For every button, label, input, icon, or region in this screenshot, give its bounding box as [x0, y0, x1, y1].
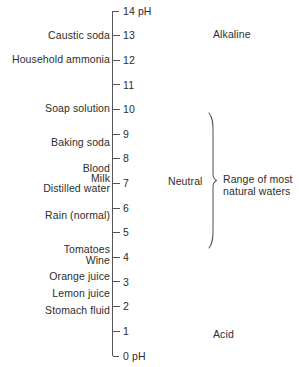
zone-label-neutral: Neutral: [168, 175, 203, 187]
tick-label-10: 10: [123, 104, 135, 115]
ph-scale-diagram: Caustic soda Household ammonia Soap solu…: [0, 0, 299, 367]
substance-label-stomach-fluid: Stomach fluid: [45, 305, 110, 316]
substance-label-rain-normal: Rain (normal): [45, 210, 110, 221]
zone-label-alkaline: Alkaline: [213, 28, 251, 40]
substance-label-orange-juice: Orange juice: [49, 271, 110, 282]
tick-label-3: 3: [123, 277, 129, 288]
substance-label-lemon-juice: Lemon juice: [52, 288, 110, 299]
tick-label-9: 9: [123, 129, 129, 140]
zone-label-acid: Acid: [213, 328, 234, 340]
tick-label-11: 11: [123, 80, 134, 91]
substance-label-caustic-soda: Caustic soda: [48, 30, 110, 41]
substance-label-distilled-water: Distilled water: [43, 183, 110, 194]
substance-label-wine: Wine: [86, 255, 110, 266]
tick-label-8: 8: [123, 153, 129, 164]
clipped-caption: [8, 360, 291, 367]
zone-label-range-of-natural-waters: Range of most natural waters: [223, 173, 299, 197]
substance-label-soap-solution: Soap solution: [45, 103, 110, 114]
tick-label-2: 2: [123, 301, 129, 312]
natural-waters-brace: [209, 113, 217, 248]
tick-label-14: 14 pH: [123, 6, 152, 17]
substance-label-baking-soda: Baking soda: [51, 137, 110, 148]
tick-label-7: 7: [123, 178, 129, 189]
tick-label-1: 1: [123, 326, 129, 337]
tick-label-13: 13: [123, 30, 135, 41]
tick-label-6: 6: [123, 203, 129, 214]
tick-label-4: 4: [123, 252, 129, 263]
tick-label-5: 5: [123, 227, 129, 238]
substance-label-household-ammonia: Household ammonia: [12, 54, 110, 65]
tick-label-12: 12: [123, 55, 135, 66]
